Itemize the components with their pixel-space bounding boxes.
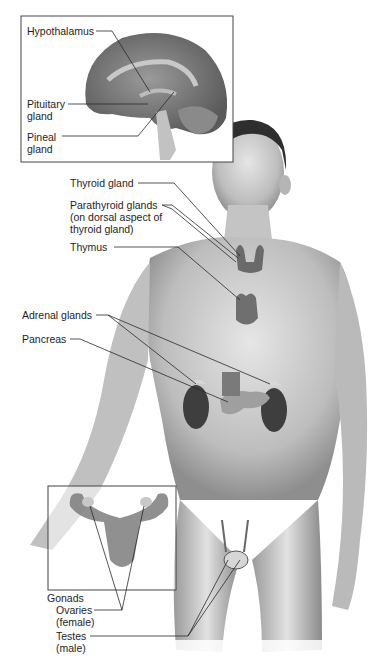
label-parathyroid-glands: Parathyroid glands (on dorsal aspect of …	[70, 199, 162, 235]
label-gonads: Gonads	[47, 592, 84, 604]
thymus-shape	[236, 293, 258, 324]
label-ovaries-female: Ovaries (female)	[56, 604, 95, 628]
label-adrenal-glands: Adrenal glands	[22, 309, 92, 321]
label-pineal-gland: Pineal gland	[27, 131, 56, 155]
label-thymus: Thymus	[70, 241, 107, 253]
endocrine-diagram: Hypothalamus Pituitary gland Pineal glan…	[0, 0, 380, 668]
label-pituitary-gland: Pituitary gland	[27, 98, 65, 122]
label-testes-male: Testes (male)	[56, 630, 86, 654]
label-hypothalamus: Hypothalamus	[27, 25, 94, 37]
label-pancreas: Pancreas	[22, 333, 66, 345]
left-kidney	[183, 385, 209, 429]
label-thyroid-gland: Thyroid gland	[70, 177, 134, 189]
